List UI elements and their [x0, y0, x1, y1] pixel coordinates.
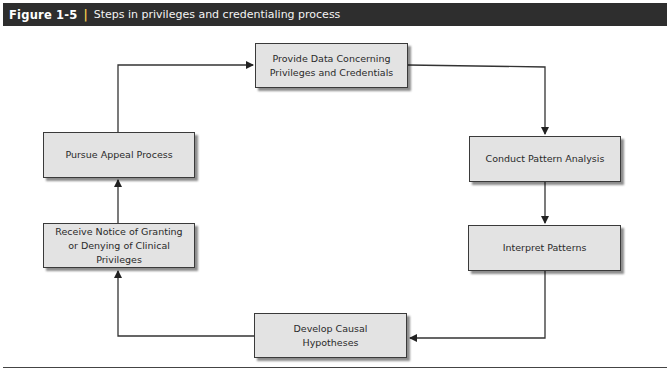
arrow-pursue-to-provide: [118, 65, 253, 132]
step-pursue-appeal: Pursue Appeal Process: [43, 132, 195, 178]
step-label: Receive Notice of Granting or Denying of…: [50, 225, 188, 267]
step-label: Develop Causal Hypotheses: [285, 322, 376, 350]
arrow-develop-to-receive: [118, 271, 254, 336]
step-conduct-pattern-analysis: Conduct Pattern Analysis: [469, 136, 621, 182]
bottom-rule: [3, 367, 667, 368]
step-develop-causal-hypotheses: Develop Causal Hypotheses: [254, 313, 407, 358]
step-label: Interpret Patterns: [503, 241, 587, 255]
step-receive-notice: Receive Notice of Granting or Denying of…: [43, 223, 195, 268]
step-label: Pursue Appeal Process: [65, 148, 172, 162]
arrow-interpret-to-develop: [410, 271, 545, 338]
step-label: Provide Data Concerning Privileges and C…: [262, 52, 401, 80]
arrow-provide-to-conduct: [408, 65, 545, 134]
step-interpret-patterns: Interpret Patterns: [468, 225, 621, 271]
step-provide-data: Provide Data Concerning Privileges and C…: [255, 43, 408, 88]
step-label: Conduct Pattern Analysis: [486, 152, 605, 166]
